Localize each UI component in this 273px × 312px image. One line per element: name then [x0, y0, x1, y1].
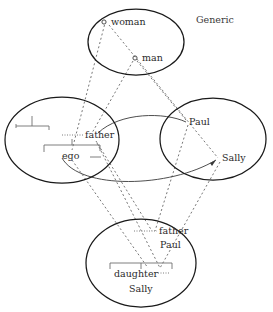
dashed-link-ego-blend	[72, 160, 148, 268]
father-label: father	[85, 130, 114, 140]
blend-father-label: father	[159, 226, 188, 236]
blend-sally-label: Sally	[129, 284, 153, 294]
paul-label: Paul	[189, 117, 210, 127]
woman-label: woman	[111, 17, 146, 27]
blend-paul-label: Paul	[160, 240, 181, 250]
blend-daughter-label: daughter	[114, 269, 158, 279]
arrow-head-sally	[210, 160, 216, 166]
generic-space-label: Generic	[196, 15, 234, 25]
input-space-left-ellipse[interactable]	[5, 97, 119, 183]
dashed-link-father-blend	[96, 141, 152, 231]
input-space-right-ellipse[interactable]	[160, 98, 266, 180]
diagram-canvas: Generic woman man father ego Paul Sally …	[0, 0, 273, 312]
sally-label: Sally	[222, 153, 246, 163]
dashed-link-man-father	[92, 61, 133, 133]
man-label: man	[142, 53, 163, 63]
ego-label: ego	[62, 151, 79, 161]
left-space-frame-bracket	[16, 116, 49, 130]
dashed-link-sally-blend	[160, 162, 220, 268]
woman-node-circle-icon	[102, 20, 106, 24]
dashed-link-woman-sally	[109, 25, 218, 158]
dashed-link-father-blend-secondary	[97, 143, 160, 268]
